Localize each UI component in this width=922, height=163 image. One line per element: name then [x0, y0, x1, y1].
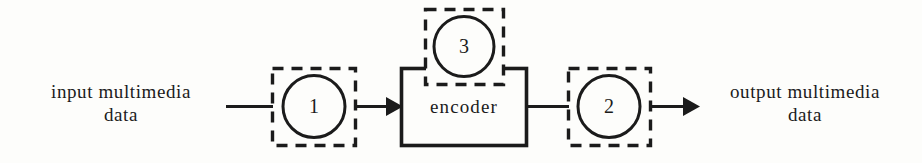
node-2-label: 2 — [578, 95, 640, 118]
node-3-label: 3 — [433, 35, 495, 58]
input-label: input multimedia data — [18, 80, 224, 126]
node-1-label: 1 — [283, 95, 345, 118]
diagram-canvas: input multimedia data encoder output mul… — [0, 0, 922, 163]
encoder-label: encoder — [401, 95, 527, 118]
output-label: output multimedia data — [698, 80, 912, 126]
connector-node-1-to-encoder — [356, 97, 403, 116]
connector-node-2-to-output — [651, 97, 700, 116]
